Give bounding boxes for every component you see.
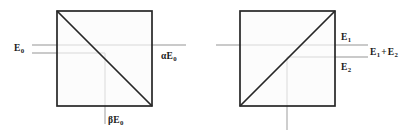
label-beta-e0-base: E	[113, 115, 120, 125]
label-sum-operator: +	[380, 47, 388, 57]
label-sum-first-sub: 1	[377, 51, 381, 58]
label-sum-second-base: E	[388, 47, 395, 57]
label-e0-sub: 0	[21, 47, 25, 54]
beam-splitter-figure: E0 αE0 βE0 E1 E2 E1+E2	[0, 0, 414, 136]
label-e2-sub: 2	[348, 66, 352, 73]
label-sum-first-base: E	[370, 47, 377, 57]
label-e0-base: E	[14, 43, 21, 53]
label-e1-base: E	[341, 32, 348, 42]
label-alpha-e0-sub: 0	[173, 55, 177, 62]
label-input-e0: E0	[14, 44, 24, 54]
label-input-e1: E1	[341, 33, 351, 43]
left-panel-group	[32, 11, 186, 124]
label-beta-e0-sub: 0	[120, 119, 124, 126]
label-e2-base: E	[341, 62, 348, 72]
label-input-e2: E2	[341, 63, 351, 73]
diagram-canvas	[0, 0, 414, 136]
label-sum-second-sub: 2	[395, 51, 399, 58]
label-output-e1-plus-e2: E1+E2	[370, 48, 398, 58]
label-e1-sub: 1	[348, 36, 352, 43]
label-reflected-beta-e0: βE0	[108, 116, 123, 126]
label-transmitted-alpha-e0: αE0	[161, 52, 177, 62]
